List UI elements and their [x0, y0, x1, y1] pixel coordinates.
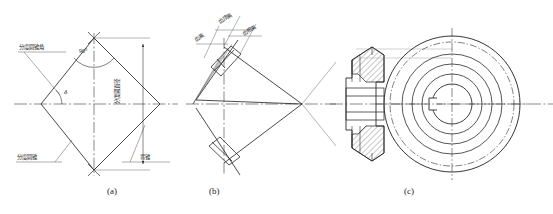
- drawing-canvas: 90° δ 分度圆锥角 分度圆锥 背锥 分度圆直径: [0, 0, 553, 214]
- hatch-upper-rim: [352, 47, 384, 82]
- right-angle-label: 90°: [79, 48, 88, 54]
- label-pitch-cone-angle: 分度圆锥角: [19, 43, 44, 51]
- label-pitch-diameter: 分度圆直径: [113, 78, 121, 104]
- caption-b: (b): [209, 186, 220, 196]
- hatch-lower-rim: [352, 126, 384, 161]
- panel-a: 90° δ 分度圆锥角 分度圆锥 背锥 分度圆直径: [14, 32, 178, 176]
- bevel-gear-figure: 90° δ 分度圆锥角 分度圆锥 背锥 分度圆直径: [0, 0, 553, 214]
- panel-b: 齿高 齿顶高 齿根高: [186, 10, 336, 176]
- caption-a: (a): [107, 186, 117, 196]
- cone-angle-symbol: δ: [64, 88, 68, 96]
- label-back-cone: 背锥: [140, 153, 151, 161]
- tooth-block-upper: [211, 46, 241, 76]
- label-pitch-cone: 分度圆锥: [17, 153, 38, 161]
- construction-rays-b: [193, 44, 232, 104]
- label-tooth-height: 齿高: [193, 31, 207, 44]
- cone-triangle-b: [196, 40, 302, 175]
- panel-c: [330, 28, 553, 180]
- leader-pitch-cone-angle: [18, 52, 66, 95]
- dimension-tooth-heights: [196, 16, 262, 58]
- cone-angle-arc: [56, 90, 62, 104]
- caption-c: (c): [404, 186, 414, 196]
- label-addendum: 齿顶高: [217, 10, 235, 25]
